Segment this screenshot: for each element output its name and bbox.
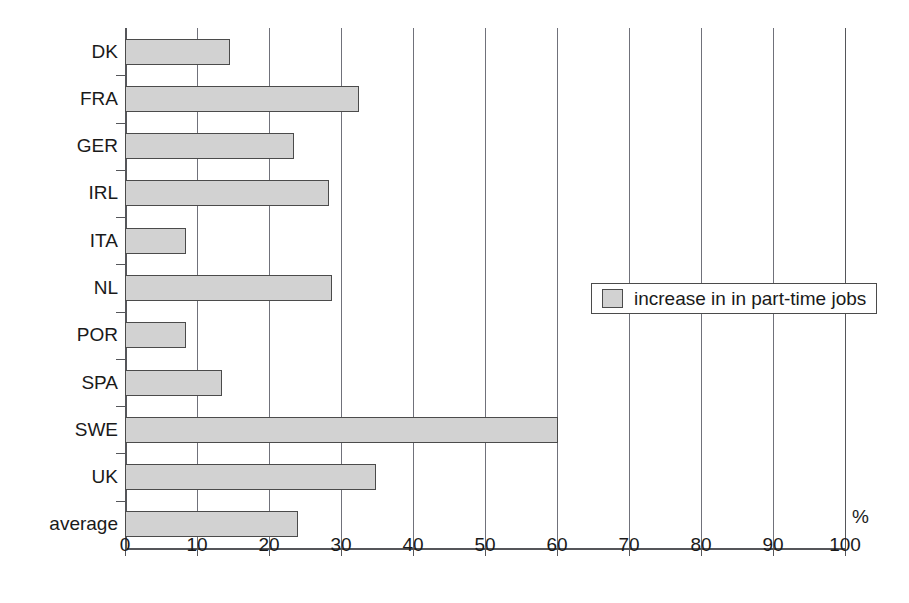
- y-axis-tick: [116, 406, 125, 407]
- x-axis-tick-label: 100: [829, 534, 861, 556]
- bar-dk: [125, 39, 230, 65]
- y-axis-tick: [116, 217, 125, 218]
- x-axis-tick-label: 40: [402, 534, 423, 556]
- y-axis-tick: [116, 75, 125, 76]
- bar-irl: [125, 180, 329, 206]
- category-axis-labels: DKFRAGERIRLITANLPORSPASWEUKaverage: [0, 28, 118, 548]
- bar-chart: DKFRAGERIRLITANLPORSPASWEUKaverage 01020…: [0, 0, 909, 603]
- x-axis-tick-label: 0: [120, 534, 131, 556]
- unit-label: %: [852, 506, 869, 528]
- x-axis-tick-label: 50: [474, 534, 495, 556]
- category-label-swe: SWE: [8, 419, 118, 441]
- bar-swe: [125, 417, 558, 443]
- category-label-nl: NL: [8, 277, 118, 299]
- x-axis-tick-label: 90: [762, 534, 783, 556]
- x-axis-tick-label: 60: [546, 534, 567, 556]
- y-axis-tick: [116, 359, 125, 360]
- bar-ger: [125, 133, 294, 159]
- gridline: [485, 28, 486, 548]
- category-label-ita: ITA: [8, 230, 118, 252]
- x-axis-tick-label: 30: [330, 534, 351, 556]
- legend-label: increase in in part-time jobs: [634, 288, 866, 310]
- bar-uk: [125, 464, 376, 490]
- category-label-irl: IRL: [8, 182, 118, 204]
- x-axis-tick-label: 80: [690, 534, 711, 556]
- y-axis-tick: [116, 501, 125, 502]
- bar-nl: [125, 275, 332, 301]
- category-label-dk: DK: [8, 41, 118, 63]
- y-axis-tick: [116, 170, 125, 171]
- category-label-fra: FRA: [8, 88, 118, 110]
- y-axis-tick: [116, 453, 125, 454]
- bar-spa: [125, 370, 222, 396]
- y-axis-tick: [116, 123, 125, 124]
- chart-legend: increase in in part-time jobs: [591, 283, 877, 314]
- legend-swatch-icon: [602, 289, 623, 308]
- y-axis-tick: [116, 264, 125, 265]
- x-axis-tick-label: 70: [618, 534, 639, 556]
- gridline: [413, 28, 414, 548]
- bar-por: [125, 322, 186, 348]
- x-axis-tick-label: 10: [186, 534, 207, 556]
- bar-fra: [125, 86, 359, 112]
- category-label-ger: GER: [8, 135, 118, 157]
- x-axis-tick-label: 20: [258, 534, 279, 556]
- category-label-spa: SPA: [8, 372, 118, 394]
- category-label-por: POR: [8, 324, 118, 346]
- category-label-average: average: [8, 513, 118, 535]
- category-label-uk: UK: [8, 466, 118, 488]
- bar-ita: [125, 228, 186, 254]
- gridline: [557, 28, 558, 548]
- y-axis-tick: [116, 312, 125, 313]
